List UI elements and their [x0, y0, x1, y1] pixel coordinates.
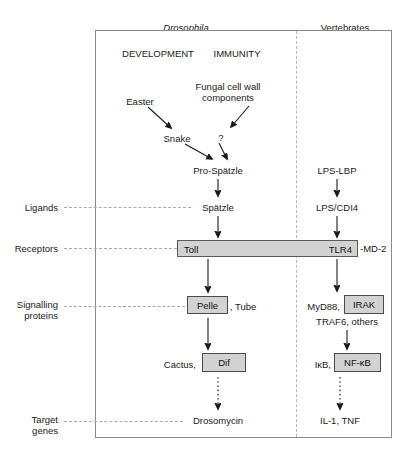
pathway-arrows: [0, 0, 414, 464]
arrow-fungal-to-unknown: [231, 106, 249, 127]
arrow-easter-to-snake: [148, 107, 171, 128]
arrow-snake-to-prospatzle: [185, 144, 212, 159]
arrow-unknown-to-prospatzle: [219, 143, 227, 159]
figure-canvas: Drosophila Vertebrates DEVELOPMENT IMMUN…: [0, 0, 414, 464]
